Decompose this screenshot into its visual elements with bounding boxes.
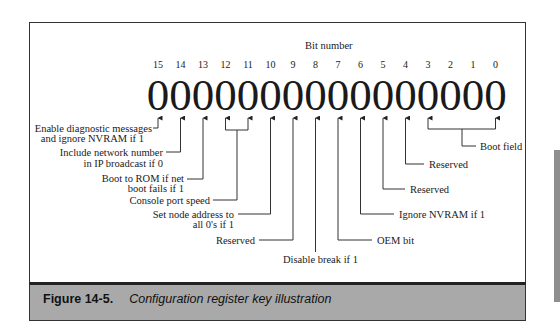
arrow-bit-5 bbox=[383, 118, 405, 189]
line-boot-field bbox=[462, 129, 476, 146]
label-bit-13-line2: boot fails if 1 bbox=[128, 183, 184, 194]
label-bit-7-oem: OEM bit bbox=[377, 235, 414, 246]
label-bit-9-reserved: Reserved bbox=[216, 235, 255, 246]
label-bit-5-reserved: Reserved bbox=[410, 184, 449, 195]
bracket-bits-3-0 bbox=[428, 118, 496, 129]
arrow-bit-15 bbox=[153, 118, 158, 128]
arrow-bit-9 bbox=[259, 118, 293, 240]
figure-number: Figure 14-5. bbox=[43, 292, 113, 306]
label-bit-6-ignore-nvram: Ignore NVRAM if 1 bbox=[399, 209, 485, 220]
label-bit-8-disable-break: Disable break if 1 bbox=[283, 254, 358, 265]
label-bit-10-line2: all 0's if 1 bbox=[193, 219, 234, 230]
label-bit-4-reserved: Reserved bbox=[429, 159, 468, 170]
caption-bar: Figure 14-5.Configuration register key i… bbox=[29, 282, 526, 321]
bracket-bits-12-11 bbox=[226, 118, 249, 130]
arrow-bit-7 bbox=[338, 118, 372, 240]
arrow-bit-14 bbox=[166, 118, 181, 152]
figure-caption: Figure 14-5.Configuration register key i… bbox=[43, 292, 331, 306]
label-bit-15-line2: and ignore NVRAM if 1 bbox=[41, 133, 144, 144]
label-console-port-speed: Console port speed bbox=[130, 195, 211, 206]
arrow-bit-6 bbox=[361, 118, 395, 214]
arrow-bit-4 bbox=[406, 118, 425, 164]
label-bit-14-line1: Include network number bbox=[60, 147, 163, 158]
label-bit-14-line2: in IP broadcast if 0 bbox=[83, 158, 163, 169]
label-boot-field: Boot field bbox=[480, 141, 522, 152]
page-side-tab bbox=[554, 150, 560, 302]
arrow-bit-13 bbox=[187, 118, 203, 179]
arrow-bit-10 bbox=[238, 118, 271, 214]
figure-title: Configuration register key illustration bbox=[129, 292, 331, 306]
line-console-speed bbox=[213, 130, 237, 200]
